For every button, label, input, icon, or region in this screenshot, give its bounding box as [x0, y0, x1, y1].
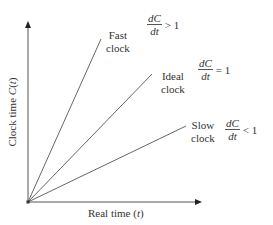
fast-clock-derivative: dCdt > 1 — [147, 12, 179, 37]
ideal-deriv-den: dt — [201, 70, 210, 82]
y-axis-arrow-icon — [25, 21, 31, 28]
fast-clock-label-line1: Fast — [106, 29, 130, 42]
ideal-clock-label: Ideal clock — [161, 70, 185, 96]
fast-deriv-den: dt — [150, 25, 159, 37]
y-axis-label: Clock time C(t) — [6, 77, 18, 146]
x-axis-label: Real time (t) — [88, 207, 144, 219]
y-axis-func: C — [6, 88, 18, 95]
ideal-clock-label-line1: Ideal — [161, 70, 185, 83]
slow-clock-label-line2: clock — [191, 132, 215, 145]
slow-deriv-num: dC — [225, 117, 240, 129]
ideal-clock-label-line2: clock — [161, 83, 185, 96]
slow-clock-line — [28, 126, 186, 202]
ideal-deriv-num: dC — [198, 57, 213, 69]
ideal-clock-line — [28, 74, 152, 202]
y-axis-label-text: Clock time — [6, 98, 18, 147]
fast-deriv-num: dC — [147, 12, 162, 24]
fast-clock-label-line2: clock — [106, 42, 130, 55]
fast-relation: > 1 — [165, 19, 179, 31]
slow-clock-label-line1: Slow — [191, 119, 215, 132]
x-axis-label-text: Real time — [88, 207, 130, 219]
origin-point — [27, 201, 30, 204]
x-axis-var: t — [137, 207, 140, 219]
slow-clock-derivative: dCdt < 1 — [225, 117, 257, 142]
slow-relation: < 1 — [243, 124, 257, 136]
y-axis-var: t — [6, 81, 18, 84]
clock-rate-diagram — [0, 0, 273, 225]
ideal-clock-derivative: dCdt = 1 — [198, 57, 230, 82]
ideal-relation: = 1 — [216, 64, 230, 76]
x-axis-arrow-icon — [195, 199, 202, 205]
fast-clock-line — [28, 39, 101, 202]
fast-clock-label: Fast clock — [106, 29, 130, 55]
slow-deriv-den: dt — [228, 130, 237, 142]
slow-clock-label: Slow clock — [191, 119, 215, 145]
